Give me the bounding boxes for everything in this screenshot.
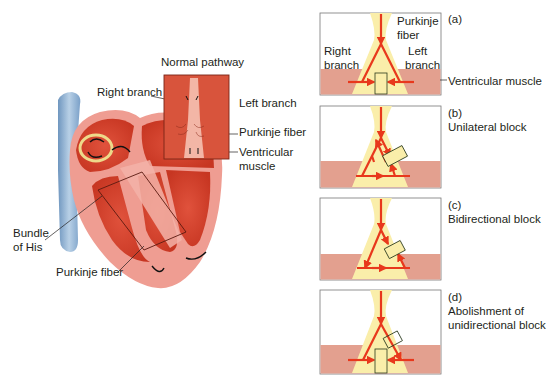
panel-a-left-1: Left xyxy=(408,45,427,58)
panel-b-caption: Unilateral block xyxy=(448,120,527,134)
panel-a-side-label: Ventricular muscle xyxy=(448,74,542,88)
panel-a-right-2: branch xyxy=(324,59,359,72)
panel-c xyxy=(320,198,441,280)
panel-a-left-2: branch xyxy=(405,59,440,72)
panel-d-letter: (d) xyxy=(448,290,462,304)
panel-c-caption: Bidirectional block xyxy=(448,212,541,226)
panel-d-caption-1: Abolishment of xyxy=(448,304,524,318)
panel-c-letter: (c) xyxy=(448,198,461,212)
panel-a-letter: (a) xyxy=(448,12,462,26)
panel-a-purkinje-1: Purkinje xyxy=(397,15,439,28)
panel-b-letter: (b) xyxy=(448,106,462,120)
panel-d xyxy=(320,290,441,374)
panel-a-purkinje-2: fiber xyxy=(397,29,419,42)
panel-d-caption-2: unidirectional block xyxy=(448,318,546,332)
panel-a-right-1: Right xyxy=(324,45,351,58)
panel-b xyxy=(320,106,441,188)
